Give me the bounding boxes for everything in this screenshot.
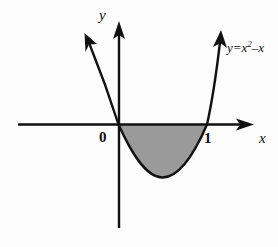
x-tick-label-one: 1 bbox=[204, 131, 212, 146]
y-axis-label: y bbox=[99, 8, 106, 23]
parabola-right-branch bbox=[207, 42, 220, 125]
x-axis-label: x bbox=[259, 131, 266, 146]
figure-canvas bbox=[0, 0, 278, 247]
curve-equation-label: y=x2–x bbox=[227, 41, 264, 54]
curve-equation-prefix: y=x bbox=[227, 40, 247, 55]
parabola-figure: y x 0 1 y=x2–x bbox=[0, 0, 278, 247]
parabola-left-branch bbox=[90, 44, 119, 125]
curve-equation-suffix: –x bbox=[252, 40, 264, 55]
origin-tick-label: 0 bbox=[99, 130, 107, 145]
